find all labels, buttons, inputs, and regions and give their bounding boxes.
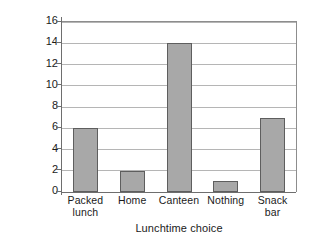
y-axis-tick-mark xyxy=(56,191,62,192)
bar-chart-figure: Number of students 0246810121416 Packedl… xyxy=(0,0,317,242)
y-axis-tick-mark xyxy=(56,106,62,107)
y-axis-tick-mark xyxy=(56,21,62,22)
y-axis-tick-mark xyxy=(56,169,62,170)
y-axis-tick-label: 2 xyxy=(36,163,58,176)
y-axis-tick-label: 12 xyxy=(36,57,58,70)
y-axis-tick-mark xyxy=(56,84,62,85)
x-axis-tick-label: Nothing xyxy=(202,194,249,206)
y-axis-tick-label: 6 xyxy=(36,120,58,133)
plot-area xyxy=(62,21,297,192)
bar xyxy=(73,128,98,192)
x-axis-tick-label: Canteen xyxy=(156,194,203,206)
bars-layer xyxy=(62,22,296,192)
y-axis-tick-mark xyxy=(56,127,62,128)
y-axis-tick-label: 14 xyxy=(36,35,58,48)
x-axis-tick-label-line: bar xyxy=(249,206,296,218)
x-axis-tick-label: Home xyxy=(109,194,156,206)
x-axis-tick-label-line: Nothing xyxy=(207,194,244,206)
bar xyxy=(213,181,238,192)
y-axis-tick-labels: 0246810121416 xyxy=(36,14,58,198)
x-axis-tick-label-line: Home xyxy=(118,194,146,206)
bar xyxy=(167,43,192,192)
x-axis-tick-label: Snackbar xyxy=(249,194,296,218)
x-axis-tick-label-line: Snack xyxy=(258,194,288,206)
x-axis-tick-label-line: Canteen xyxy=(159,194,199,206)
x-axis-tick-label: Packedlunch xyxy=(62,194,109,218)
y-axis-tick-label: 4 xyxy=(36,142,58,155)
y-axis-tick-label: 0 xyxy=(36,184,58,197)
y-axis-tick-mark xyxy=(56,63,62,64)
y-axis-tick-label: 16 xyxy=(36,14,58,27)
bar xyxy=(260,118,285,192)
x-axis-tick-labels: PackedlunchHomeCanteenNothingSnackbar xyxy=(62,194,296,224)
y-axis-title: Number of students xyxy=(14,0,28,28)
y-axis-tick-label: 10 xyxy=(36,78,58,91)
y-axis-tick-mark xyxy=(56,148,62,149)
y-axis-tick-label: 8 xyxy=(36,99,58,112)
x-axis-tick-label-line: Packed xyxy=(68,194,104,206)
x-axis-title: Lunchtime choice xyxy=(62,222,296,235)
bar xyxy=(120,171,145,192)
y-axis-tick-mark xyxy=(56,42,62,43)
x-axis-tick-label-line: lunch xyxy=(62,206,109,218)
